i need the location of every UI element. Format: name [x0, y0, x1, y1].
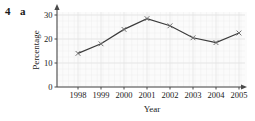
x-tick-label: 2002 [162, 90, 179, 100]
x-tick-label: 2001 [139, 90, 156, 100]
x-tick-label: 1998 [70, 90, 87, 100]
figure-container: 4 a 010203019981999200020012002200320042… [0, 0, 255, 121]
x-tick-label: 2003 [185, 90, 202, 100]
x-tick-label: 2000 [116, 90, 133, 100]
x-tick-label: 2005 [231, 90, 248, 100]
y-axis-arrow [54, 4, 59, 10]
y-axis-title: Percentage [31, 30, 41, 69]
x-tick-label: 1999 [93, 90, 110, 100]
y-tick-label: 20 [44, 34, 53, 44]
chart-svg: 010203019981999200020012002200320042005 … [0, 0, 255, 121]
y-tick-label: 10 [44, 58, 53, 68]
y-tick-label: 30 [44, 10, 53, 20]
x-tick-label: 2004 [208, 90, 226, 100]
x-axis-title: Year [144, 104, 161, 114]
y-tick-label: 0 [48, 82, 52, 92]
line-chart: 010203019981999200020012002200320042005 … [0, 0, 255, 121]
